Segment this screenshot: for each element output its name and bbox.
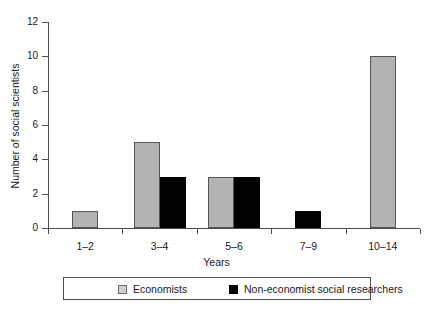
- legend-label-economists: Economists: [133, 283, 187, 295]
- x-axis-tick-label: 3–4: [151, 240, 169, 252]
- x-axis-tick: [122, 229, 123, 234]
- x-axis-tick: [271, 229, 272, 234]
- legend-swatch-non-economists-icon: [229, 285, 238, 294]
- bar-non-economists-5-6: [234, 177, 260, 229]
- x-axis-tick-label: 1–2: [76, 240, 94, 252]
- legend: Economists Non-economist social research…: [63, 277, 371, 300]
- y-axis-tick-label: 12: [20, 17, 38, 27]
- bar-economists-1-2: [72, 211, 98, 228]
- x-axis-tick: [197, 229, 198, 234]
- y-axis-tick-label: 4: [20, 154, 38, 164]
- plot-area: [48, 22, 420, 228]
- x-axis-tick: [346, 229, 347, 234]
- x-axis-tick-label: 5–6: [225, 240, 243, 252]
- bar-non-economists-3-4: [160, 177, 186, 229]
- bar-economists-5-6: [208, 177, 234, 229]
- x-axis-label: Years: [0, 256, 433, 268]
- bar-economists-3-4: [134, 142, 160, 228]
- y-axis-tick-label: 10: [20, 51, 38, 61]
- x-axis-line: [48, 228, 420, 229]
- legend-item-economists: Economists: [118, 283, 187, 295]
- x-axis-tick: [420, 229, 421, 234]
- bar-non-economists-7-9: [295, 211, 321, 228]
- legend-item-non-economist-social-researchers: Non-economist social researchers: [229, 283, 403, 295]
- y-axis-tick-label: 6: [20, 120, 38, 130]
- y-axis-tick-label: 2: [20, 189, 38, 199]
- legend-swatch-economists-icon: [118, 285, 127, 294]
- x-axis-tick-label: 10–14: [368, 240, 397, 252]
- bar-economists-10-14: [370, 56, 396, 228]
- x-axis-tick-label: 7–9: [300, 240, 318, 252]
- y-axis-tick-label: 8: [20, 86, 38, 96]
- y-axis-tick-label: 0: [20, 223, 38, 233]
- x-axis-tick: [48, 229, 49, 234]
- legend-label-non-economists: Non-economist social researchers: [244, 283, 403, 295]
- bar-chart: Number of social scientists 024681012 1–…: [0, 0, 433, 317]
